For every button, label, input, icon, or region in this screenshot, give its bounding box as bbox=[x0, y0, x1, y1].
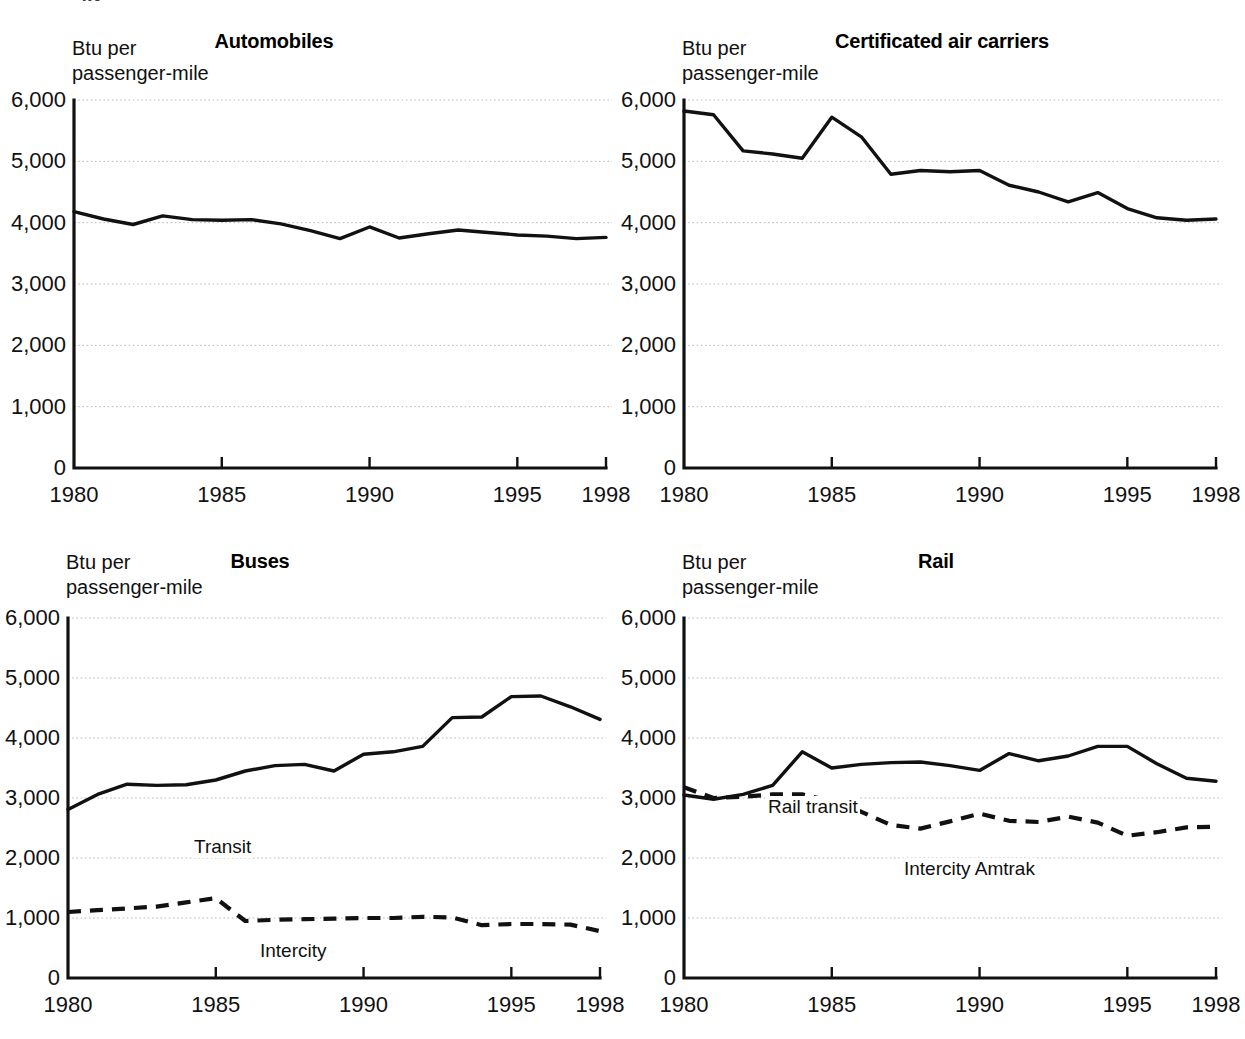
chart-panel-automobiles: Automobiles Btu per passenger-mile 01,00… bbox=[0, 8, 616, 518]
y-axis-tick-label: 4,000 bbox=[621, 725, 676, 751]
x-axis-tick-label: 1998 bbox=[1192, 482, 1241, 508]
plot-area-air-carriers: 01,0002,0003,0004,0005,0006,000198019851… bbox=[616, 8, 1232, 518]
series-label-on-plot: Intercity Amtrak bbox=[902, 858, 1037, 880]
cropped-top-text-fragment: gy bbox=[82, 0, 116, 1]
x-axis-tick-label: 1995 bbox=[487, 992, 536, 1018]
y-axis-tick-label: 2,000 bbox=[621, 845, 676, 871]
y-axis-tick-label: 2,000 bbox=[621, 332, 676, 358]
y-axis-tick-label: 3,000 bbox=[5, 785, 60, 811]
x-axis-tick-label: 1990 bbox=[345, 482, 394, 508]
x-axis-tick-label: 1980 bbox=[660, 992, 709, 1018]
y-axis-tick-label: 6,000 bbox=[621, 605, 676, 631]
data-series-line bbox=[684, 746, 1216, 799]
x-axis-tick-label: 1995 bbox=[1103, 482, 1152, 508]
y-axis-tick-label: 5,000 bbox=[11, 148, 66, 174]
y-axis-tick-label: 0 bbox=[664, 965, 676, 991]
chart-panel-air-carriers: Certificated air carriers Btu per passen… bbox=[616, 8, 1232, 518]
y-axis-tick-label: 3,000 bbox=[621, 271, 676, 297]
chart-panel-rail: Rail Btu per passenger-mile 01,0002,0003… bbox=[616, 528, 1232, 1038]
data-series-line bbox=[68, 696, 600, 809]
data-series-line bbox=[74, 212, 606, 239]
y-axis-tick-label: 5,000 bbox=[5, 665, 60, 691]
series-label-on-plot: Transit bbox=[192, 836, 253, 858]
data-series-line bbox=[684, 787, 1216, 836]
plot-area-buses: 01,0002,0003,0004,0005,0006,000198019851… bbox=[0, 528, 616, 1038]
y-axis-tick-label: 3,000 bbox=[621, 785, 676, 811]
x-axis-tick-label: 1995 bbox=[493, 482, 542, 508]
y-axis-tick-label: 6,000 bbox=[5, 605, 60, 631]
x-axis-tick-label: 1998 bbox=[1192, 992, 1241, 1018]
y-axis-tick-label: 1,000 bbox=[11, 394, 66, 420]
x-axis-tick-label: 1990 bbox=[955, 482, 1004, 508]
series-label-on-plot: Intercity bbox=[258, 940, 329, 962]
chart-svg bbox=[616, 8, 1232, 518]
x-axis-tick-label: 1980 bbox=[50, 482, 99, 508]
x-axis-tick-label: 1985 bbox=[807, 992, 856, 1018]
y-axis-tick-label: 5,000 bbox=[621, 665, 676, 691]
chart-svg bbox=[616, 528, 1232, 1038]
chart-panel-buses: Buses Btu per passenger-mile 01,0002,000… bbox=[0, 528, 616, 1038]
y-axis-tick-label: 1,000 bbox=[621, 905, 676, 931]
y-axis-tick-label: 1,000 bbox=[5, 905, 60, 931]
y-axis-tick-label: 0 bbox=[664, 455, 676, 481]
y-axis-tick-label: 5,000 bbox=[621, 148, 676, 174]
y-axis-tick-label: 6,000 bbox=[11, 87, 66, 113]
y-axis-tick-label: 0 bbox=[48, 965, 60, 991]
y-axis-tick-label: 6,000 bbox=[621, 87, 676, 113]
y-axis-tick-label: 1,000 bbox=[621, 394, 676, 420]
plot-area-rail: 01,0002,0003,0004,0005,0006,000198019851… bbox=[616, 528, 1232, 1038]
x-axis-tick-label: 1980 bbox=[44, 992, 93, 1018]
x-axis-tick-label: 1985 bbox=[191, 992, 240, 1018]
data-series-line bbox=[684, 111, 1216, 220]
y-axis-tick-label: 2,000 bbox=[5, 845, 60, 871]
x-axis-tick-label: 1980 bbox=[660, 482, 709, 508]
plot-area-automobiles: 01,0002,0003,0004,0005,0006,000198019851… bbox=[0, 8, 616, 518]
x-axis-tick-label: 1995 bbox=[1103, 992, 1152, 1018]
x-axis-tick-label: 1990 bbox=[955, 992, 1004, 1018]
x-axis-tick-label: 1985 bbox=[197, 482, 246, 508]
x-axis-tick-label: 1990 bbox=[339, 992, 388, 1018]
data-series-line bbox=[68, 898, 600, 931]
chart-svg bbox=[0, 8, 616, 518]
y-axis-tick-label: 4,000 bbox=[621, 210, 676, 236]
y-axis-tick-label: 0 bbox=[54, 455, 66, 481]
series-label-on-plot: Rail transit bbox=[766, 796, 860, 818]
y-axis-tick-label: 2,000 bbox=[11, 332, 66, 358]
y-axis-tick-label: 4,000 bbox=[11, 210, 66, 236]
y-axis-tick-label: 4,000 bbox=[5, 725, 60, 751]
y-axis-tick-label: 3,000 bbox=[11, 271, 66, 297]
x-axis-tick-label: 1985 bbox=[807, 482, 856, 508]
